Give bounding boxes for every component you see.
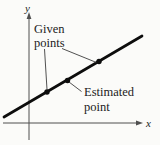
line-fit-diagram: y x Given points Estimated point	[0, 0, 160, 145]
given-points-label-line2: points	[34, 36, 65, 50]
estimated-point-label-line2: point	[84, 100, 110, 114]
estimated-point-label-line1: Estimated	[84, 85, 135, 99]
x-axis-label: x	[145, 117, 151, 129]
estimated-point	[65, 78, 70, 83]
diagram-canvas: y x Given points Estimated point	[0, 0, 160, 145]
given-point-2	[96, 59, 101, 64]
given-point-1	[44, 89, 49, 94]
given-points-label-line1: Given	[34, 22, 65, 36]
y-axis-label: y	[24, 2, 30, 14]
